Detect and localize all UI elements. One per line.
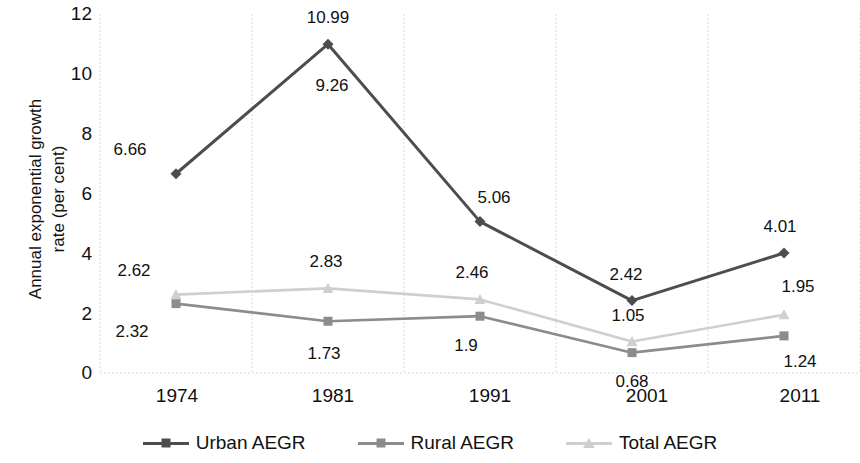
legend-item-total[interactable]: Total AEGR bbox=[566, 432, 717, 454]
data-point-marker-rural-1974 bbox=[172, 299, 181, 308]
data-label-total-1974: 2.62 bbox=[117, 261, 150, 281]
data-point-marker-urban-2001 bbox=[627, 295, 638, 306]
x-tick-2001: 2001 bbox=[626, 385, 668, 407]
series-line-rural-aegr bbox=[176, 304, 784, 353]
plot-area bbox=[0, 0, 860, 463]
data-label-urban-1981: 10.99 bbox=[307, 8, 350, 28]
legend-label-urban: Urban AEGR bbox=[196, 432, 306, 454]
legend-item-rural[interactable]: Rural AEGR bbox=[358, 432, 514, 454]
data-label-rural-2011: 1.24 bbox=[783, 352, 816, 372]
x-tick-1991: 1991 bbox=[469, 385, 511, 407]
data-point-marker-rural-2011 bbox=[780, 331, 789, 340]
data-label-urban-1991: 5.06 bbox=[477, 188, 510, 208]
data-point-marker-rural-1991 bbox=[476, 312, 485, 321]
rural-series-key-icon bbox=[358, 435, 404, 451]
data-label-total-2001: 1.05 bbox=[611, 306, 644, 326]
data-point-marker-urban-2011 bbox=[779, 248, 790, 259]
data-label-urban-2011: 4.01 bbox=[763, 217, 796, 237]
data-label-rural-1974: 2.32 bbox=[115, 322, 148, 342]
chart-legend: Urban AEGR Rural AEGR Total AEGR bbox=[0, 432, 860, 454]
data-point-marker-rural-2001 bbox=[628, 348, 637, 357]
legend-item-urban[interactable]: Urban AEGR bbox=[143, 432, 306, 454]
data-label-urban-secondary-9-26: 9.26 bbox=[315, 76, 348, 96]
x-tick-1974: 1974 bbox=[156, 385, 198, 407]
urban-series-key-icon bbox=[143, 435, 189, 451]
line-chart: Annual exponential growth rate (per cent… bbox=[0, 0, 860, 463]
data-label-urban-2001: 2.42 bbox=[609, 265, 642, 285]
x-tick-2011: 2011 bbox=[780, 385, 821, 407]
data-label-urban-1974: 6.66 bbox=[113, 140, 146, 160]
data-label-rural-1991: 1.9 bbox=[454, 336, 478, 356]
total-series-key-icon bbox=[566, 435, 612, 451]
legend-label-total: Total AEGR bbox=[619, 432, 717, 454]
series-line-urban-aegr bbox=[176, 44, 784, 300]
data-label-total-2011: 1.95 bbox=[781, 277, 814, 297]
legend-label-rural: Rural AEGR bbox=[411, 432, 514, 454]
data-label-total-1991: 2.46 bbox=[455, 263, 488, 283]
data-label-total-1981: 2.83 bbox=[309, 252, 342, 272]
data-label-rural-1981: 1.73 bbox=[307, 344, 340, 364]
x-tick-1981: 1981 bbox=[312, 385, 354, 407]
data-point-marker-rural-1981 bbox=[324, 317, 333, 326]
